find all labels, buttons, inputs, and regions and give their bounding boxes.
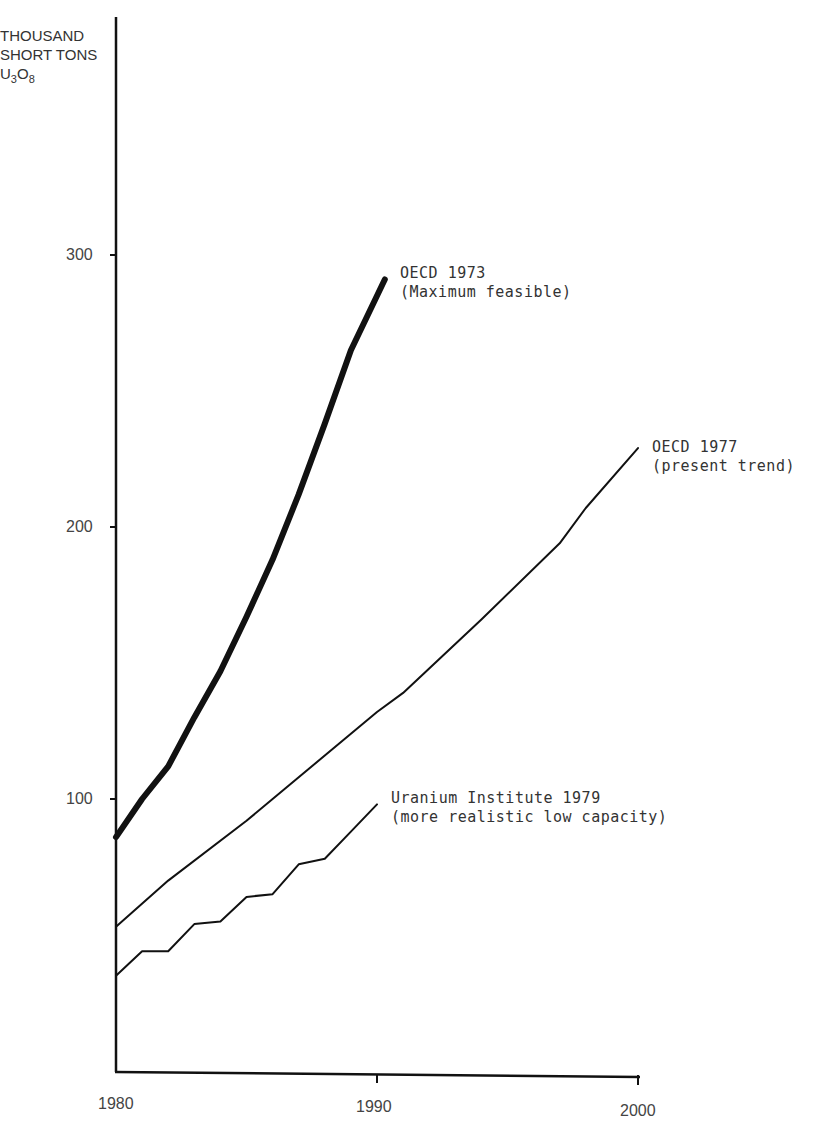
series-label-oecd-1977: OECD 1977 (present trend) — [652, 438, 795, 476]
x-tick-label-1990: 1990 — [356, 1098, 392, 1116]
y-tick-label-200: 200 — [66, 518, 93, 536]
series-line-1 — [116, 448, 638, 927]
x-tick-label-2000: 2000 — [620, 1102, 656, 1120]
series-line-2 — [116, 804, 377, 975]
x-tick-label-1980: 1980 — [98, 1095, 134, 1113]
series-line-0 — [116, 280, 385, 838]
y-tick-label-300: 300 — [66, 246, 93, 264]
line-chart — [0, 0, 834, 1131]
axes — [110, 17, 640, 1085]
y-tick-label-100: 100 — [66, 790, 93, 808]
series-label-oecd-1973: OECD 1973 (Maximum feasible) — [400, 264, 572, 302]
series-label-uranium-institute-1979: Uranium Institute 1979 (more realistic l… — [391, 789, 667, 827]
series-lines — [116, 280, 638, 976]
